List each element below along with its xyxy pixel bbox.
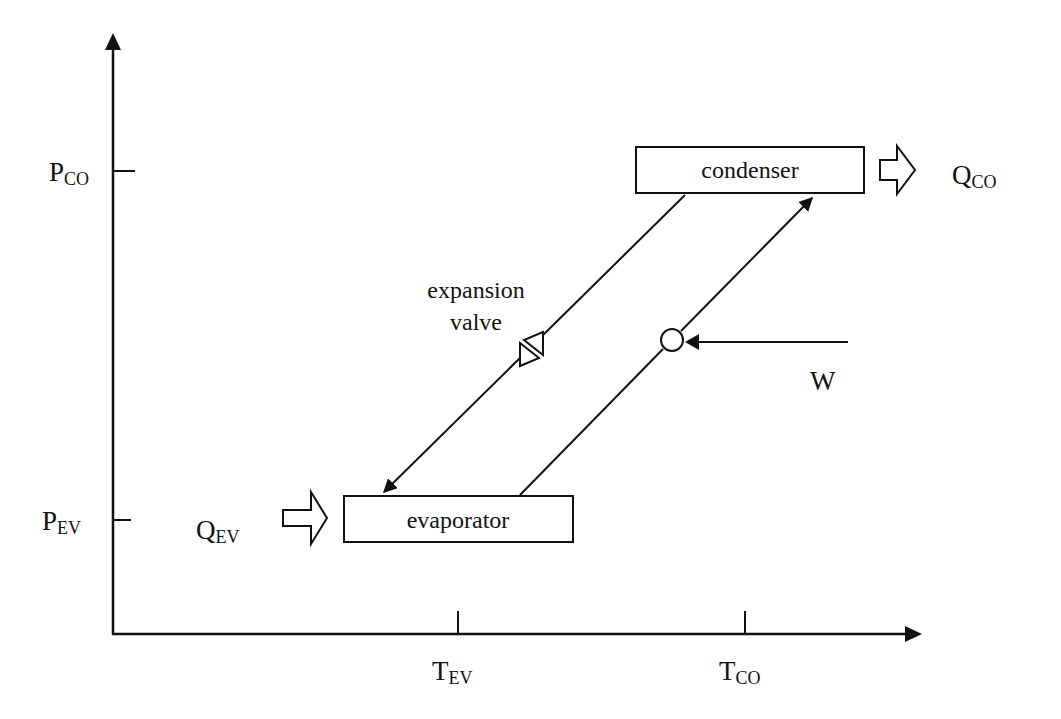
evaporator-box: evaporator xyxy=(344,496,573,542)
expansion-label-line2: valve xyxy=(450,309,502,335)
suction-line-lower xyxy=(520,349,663,495)
y-axis-arrowhead-icon xyxy=(105,33,121,50)
liquid-line-lower-arrow xyxy=(384,354,524,492)
condenser-label: condenser xyxy=(701,157,798,183)
label-t-co: TCO xyxy=(719,656,761,688)
label-p-ev: PEV xyxy=(42,506,81,538)
evaporator-label: evaporator xyxy=(407,507,510,533)
label-p-co: PCO xyxy=(49,157,89,189)
y-axis xyxy=(105,33,135,635)
heat-in-arrow-icon xyxy=(283,492,327,544)
heat-out-arrow-icon xyxy=(880,146,915,194)
discharge-line-upper-arrow xyxy=(681,198,812,331)
refrigeration-cycle-diagram: PCO PEV TEV TCO condenser evaporator exp… xyxy=(0,0,1061,719)
liquid-line-upper xyxy=(536,195,685,342)
expansion-valve-icon xyxy=(520,332,543,366)
compressor-icon xyxy=(661,329,683,351)
expansion-label-line1: expansion xyxy=(427,277,524,303)
work-arrowhead-icon xyxy=(685,334,699,350)
x-axis xyxy=(112,611,922,642)
work-label: W xyxy=(810,366,836,396)
label-q-ev: QEV xyxy=(196,515,240,547)
x-axis-arrowhead-icon xyxy=(905,626,922,642)
condenser-box: condenser xyxy=(636,147,864,193)
label-t-ev: TEV xyxy=(432,656,473,688)
label-q-co: QCO xyxy=(952,160,997,192)
